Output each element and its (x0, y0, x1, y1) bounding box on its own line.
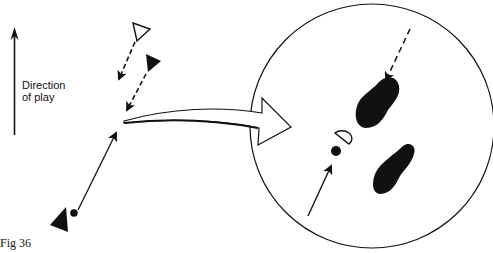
dashed-movement-arrow-1 (119, 42, 135, 79)
diagram-svg (0, 0, 493, 253)
diagram-stage: Direction of play Fig 36 (0, 0, 493, 253)
direction-of-play-arrow-icon (11, 27, 19, 135)
zoom-indicator-arrow-icon (124, 98, 291, 145)
figure-caption: Fig 36 (0, 236, 31, 250)
direction-label-line2: of play (22, 91, 65, 103)
ball-icon (70, 209, 78, 217)
player-triangle-marker-icon (50, 207, 68, 232)
direction-label-line1: Direction (22, 79, 65, 91)
enlarged-ball-icon (331, 146, 341, 156)
filled-triangle-marker-icon (146, 54, 161, 72)
direction-of-play-label: Direction of play (22, 79, 65, 103)
ball-path-arrow (78, 133, 116, 210)
dashed-movement-arrow-2 (127, 74, 146, 110)
hollow-triangle-marker-icon (133, 23, 150, 41)
